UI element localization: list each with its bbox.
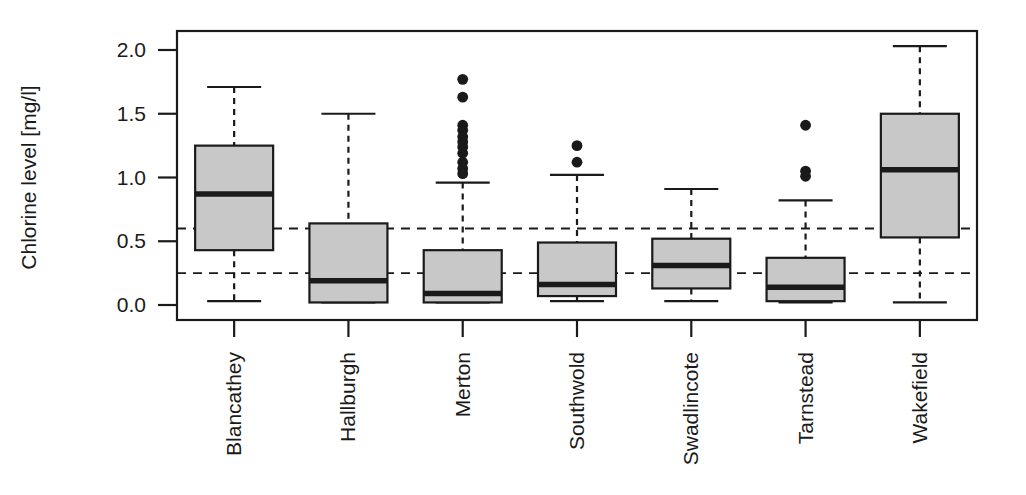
box-iqr bbox=[538, 243, 616, 297]
x-tick-label-merton: Merton bbox=[451, 352, 474, 417]
y-axis-tick-marks bbox=[158, 50, 177, 305]
box-iqr bbox=[767, 258, 845, 301]
outlier-point bbox=[800, 120, 811, 131]
x-tick-label-tarnstead: Tarnstead bbox=[794, 352, 817, 444]
outlier-point bbox=[457, 92, 468, 103]
x-tick-label-blancathey: Blancathey bbox=[222, 352, 245, 456]
box-plot-hallburgh bbox=[309, 114, 387, 303]
x-tick-label-swadlincote: Swadlincote bbox=[679, 352, 702, 465]
box-iqr bbox=[881, 114, 959, 238]
outlier-point bbox=[572, 140, 583, 151]
outlier-point bbox=[800, 171, 811, 182]
box-plot-tarnstead bbox=[767, 200, 845, 302]
y-tick-label: 0.5 bbox=[117, 229, 146, 252]
y-tick-label: 1.5 bbox=[117, 102, 146, 125]
boxplot-figure: Chlorine level [mg/l] 0.00.51.01.52.0 Bl… bbox=[0, 0, 1026, 495]
outlier-point bbox=[457, 168, 468, 179]
x-tick-label-hallburgh: Hallburgh bbox=[336, 352, 359, 442]
y-tick-label: 0.0 bbox=[117, 293, 146, 316]
box-plot-wakefield bbox=[881, 46, 959, 302]
y-axis-label: Chlorine level [mg/l] bbox=[17, 85, 40, 269]
box-plot-swadlincote bbox=[652, 189, 730, 301]
box-plot-southwold bbox=[538, 175, 616, 301]
y-axis-title: Chlorine level [mg/l] bbox=[17, 85, 40, 269]
outlier-point bbox=[457, 74, 468, 85]
x-tick-label-southwold: Southwold bbox=[565, 352, 588, 450]
x-axis-tick-marks bbox=[234, 320, 920, 337]
box-iqr bbox=[195, 146, 273, 251]
outlier-points bbox=[457, 74, 811, 182]
box-plots bbox=[195, 46, 959, 302]
y-tick-label: 1.0 bbox=[117, 166, 146, 189]
box-plot-merton bbox=[424, 183, 502, 303]
box-plot-blancathey bbox=[195, 87, 273, 301]
x-tick-label-wakefield: Wakefield bbox=[908, 352, 931, 443]
x-axis-tick-labels: BlancatheyHallburghMertonSouthwoldSwadli… bbox=[222, 352, 931, 466]
outlier-point bbox=[572, 157, 583, 168]
y-axis-tick-labels: 0.00.51.01.52.0 bbox=[117, 38, 146, 316]
y-tick-label: 2.0 bbox=[117, 38, 146, 61]
box-iqr bbox=[309, 223, 387, 302]
